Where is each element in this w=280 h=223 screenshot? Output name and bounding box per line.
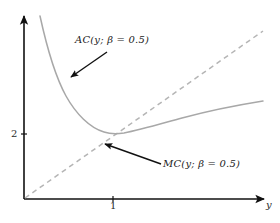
cost-curve-figure: AC(y; β = 0.5) MC(y; β = 0.5) 2 1 y <box>0 0 280 223</box>
mc-annotation-arrow <box>105 144 161 164</box>
mc-curve <box>25 31 263 198</box>
x-axis-tick-label-1: 1 <box>110 200 116 211</box>
ac-curve-label: AC(y; β = 0.5) <box>75 34 149 45</box>
y-axis-tick-label-2: 2 <box>11 128 17 139</box>
x-axis-name-label: y <box>266 199 272 210</box>
mc-curve-label: MC(y; β = 0.5) <box>163 158 240 169</box>
ac-annotation-arrow <box>71 52 107 77</box>
